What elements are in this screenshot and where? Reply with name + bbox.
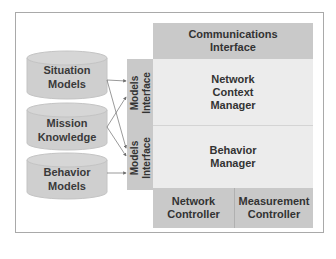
arrow-mission-to-top [107,97,126,127]
connection-arrows [0,0,336,259]
arrow-situation-to-bottom [107,80,126,148]
arrow-mission-to-bottom [107,127,126,156]
arrow-situation-to-top [107,80,126,81]
